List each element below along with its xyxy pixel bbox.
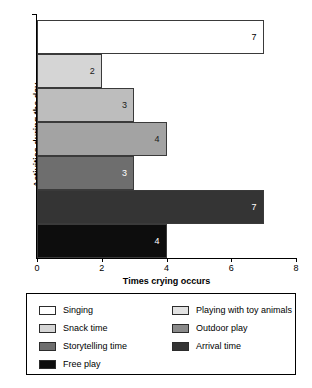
legend-label: Outdoor play [196,323,248,333]
bar-row: 2 [37,54,296,88]
legend-swatch [172,342,189,351]
legend-label: Playing with toy animals [196,305,292,315]
bar-chart-figure: Activities during the day 7234374 Times … [0,0,312,290]
x-axis-tick-mark [102,258,103,262]
legend-item[interactable]: Snack time [39,319,169,337]
x-axis-tick-label: 6 [221,263,241,273]
bar-row: 3 [37,156,296,190]
bar-value-label: 3 [122,169,127,178]
legend-label: Storytelling time [63,341,127,351]
bar-value-label: 4 [154,237,159,246]
bar: 7 [37,20,264,54]
legend-swatch [39,324,56,333]
bar-value-label: 4 [154,135,159,144]
legend-label: Snack time [63,323,108,333]
bar-row: 7 [37,190,296,224]
legend-column-left: SingingSnack timeStorytelling timeFree p… [39,301,169,373]
x-axis-tick-mark [37,258,38,262]
legend-item[interactable]: Free play [39,355,169,373]
bar-value-label: 3 [122,101,127,110]
x-axis-tick-label: 0 [27,263,47,273]
legend-swatch [39,360,56,369]
bar-row: 4 [37,224,296,258]
bar: 2 [37,54,102,88]
bar: 7 [37,190,264,224]
x-axis-tick-mark [167,258,168,262]
legend-item[interactable]: Storytelling time [39,337,169,355]
legend-column-right: Playing with toy animalsOutdoor playArri… [172,301,312,355]
x-axis-tick-mark [231,258,232,262]
bar: 4 [37,122,167,156]
legend-swatch [172,306,189,315]
legend-swatch [39,342,56,351]
bar-row: 4 [37,122,296,156]
legend-label: Singing [63,305,93,315]
plot-area: 7234374 [37,20,296,258]
bar-value-label: 2 [90,67,95,76]
bar: 3 [37,88,134,122]
legend-label: Free play [63,359,101,369]
legend-item[interactable]: Outdoor play [172,319,312,337]
x-axis-tick-label: 2 [92,263,112,273]
legend-label: Arrival time [196,341,241,351]
bar-value-label: 7 [252,203,257,212]
bar: 3 [37,156,134,190]
bar: 4 [37,224,167,258]
bar-row: 3 [37,88,296,122]
bar-row: 7 [37,20,296,54]
x-axis-tick-label: 4 [157,263,177,273]
bar-value-label: 7 [252,33,257,42]
x-axis-tick-mark [296,258,297,262]
legend-item[interactable]: Playing with toy animals [172,301,312,319]
legend-item[interactable]: Singing [39,301,169,319]
legend-swatch [39,306,56,315]
legend: SingingSnack timeStorytelling timeFree p… [26,293,296,375]
x-axis-title: Times crying occurs [37,276,296,286]
x-axis-tick-label: 8 [286,263,306,273]
legend-swatch [172,324,189,333]
legend-item[interactable]: Arrival time [172,337,312,355]
